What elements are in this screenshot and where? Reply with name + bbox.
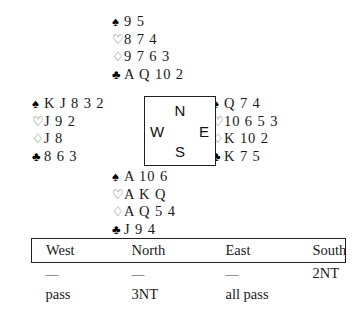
compass-east-label: E xyxy=(199,124,209,139)
auction-header-east: East xyxy=(212,239,299,263)
hand-north-hearts-cards: 8 7 4 xyxy=(124,31,158,49)
hand-east-spades: ♠ Q 7 4 xyxy=(212,95,278,113)
bridge-deal-diagram: ♠ 9 5 ♡ 8 7 4 ♢ 9 7 6 3 ♣ A Q 10 2 ♠ K J… xyxy=(0,0,359,232)
hand-east-spades-cards: Q 7 4 xyxy=(224,95,261,113)
hand-west-diamonds-cards: J 8 xyxy=(44,130,63,148)
hand-west-hearts: ♡ J 9 2 xyxy=(32,113,104,131)
hand-south-clubs: ♣ J 9 4 xyxy=(112,221,176,239)
auction-header-west: West xyxy=(32,239,118,263)
hand-east-diamonds: ♢ K 10 2 xyxy=(212,130,278,148)
auction-header-north: North xyxy=(118,239,212,263)
auction-bid-north-1: — xyxy=(118,263,212,285)
auction-bid-west-1: — xyxy=(32,263,118,285)
hand-west-clubs-cards: 8 6 3 xyxy=(44,148,78,166)
compass-west-label: W xyxy=(150,124,164,139)
auction-bid-west-2: pass xyxy=(32,284,118,305)
heart-icon: ♡ xyxy=(32,113,44,131)
hand-east-clubs: ♣ K 7 5 xyxy=(212,148,278,166)
hand-east-diamonds-cards: K 10 2 xyxy=(224,130,269,148)
hand-east-clubs-cards: K 7 5 xyxy=(224,148,261,166)
hand-north-spades: ♠ 9 5 xyxy=(112,13,184,31)
heart-icon: ♡ xyxy=(112,186,124,204)
hand-west-spades-cards: K J 8 3 2 xyxy=(44,95,104,113)
hand-north-clubs: ♣ A Q 10 2 xyxy=(112,66,184,84)
club-icon: ♣ xyxy=(112,221,124,239)
hand-north-spades-cards: 9 5 xyxy=(124,13,145,31)
hand-west-clubs: ♣ 8 6 3 xyxy=(32,148,104,166)
compass-north-label: N xyxy=(175,103,186,118)
compass-box: N W E S xyxy=(144,96,216,166)
auction-bid-south-1: 2NT xyxy=(299,263,346,285)
diamond-icon: ♢ xyxy=(32,130,44,148)
hand-north-hearts: ♡ 8 7 4 xyxy=(112,31,184,49)
hand-north-clubs-cards: A Q 10 2 xyxy=(124,66,184,84)
auction-table: West North East South — — — 2NT pass 3NT… xyxy=(31,238,345,305)
auction-header-row: West North East South xyxy=(32,239,346,263)
hand-west: ♠ K J 8 3 2 ♡ J 9 2 ♢ J 8 ♣ 8 6 3 xyxy=(32,95,104,165)
auction-bid-east-1: — xyxy=(212,263,299,285)
hand-east-hearts: ♡ 10 6 5 3 xyxy=(212,113,278,131)
hand-south: ♠ A 10 6 ♡ A K Q ♢ A Q 5 4 ♣ J 9 4 xyxy=(112,168,176,238)
diamond-icon: ♢ xyxy=(112,203,124,221)
hand-north: ♠ 9 5 ♡ 8 7 4 ♢ 9 7 6 3 ♣ A Q 10 2 xyxy=(112,13,184,83)
auction-header-south: South xyxy=(299,239,346,263)
hand-south-spades: ♠ A 10 6 xyxy=(112,168,176,186)
spade-icon: ♠ xyxy=(32,95,44,113)
hand-east: ♠ Q 7 4 ♡ 10 6 5 3 ♢ K 10 2 ♣ K 7 5 xyxy=(212,95,278,165)
compass-south-label: S xyxy=(175,144,185,159)
hand-south-diamonds: ♢ A Q 5 4 xyxy=(112,203,176,221)
hand-south-hearts: ♡ A K Q xyxy=(112,186,176,204)
hand-north-diamonds: ♢ 9 7 6 3 xyxy=(112,48,184,66)
hand-west-spades: ♠ K J 8 3 2 xyxy=(32,95,104,113)
hand-east-hearts-cards: 10 6 5 3 xyxy=(224,113,278,131)
heart-icon: ♡ xyxy=(112,31,124,49)
hand-west-hearts-cards: J 9 2 xyxy=(44,113,76,131)
auction-row: pass 3NT all pass xyxy=(32,284,346,305)
hand-south-spades-cards: A 10 6 xyxy=(124,168,168,186)
auction-row: — — — 2NT xyxy=(32,263,346,285)
spade-icon: ♠ xyxy=(112,13,124,31)
hand-north-diamonds-cards: 9 7 6 3 xyxy=(124,48,170,66)
diamond-icon: ♢ xyxy=(112,48,124,66)
hand-south-clubs-cards: J 9 4 xyxy=(124,221,156,239)
hand-west-diamonds: ♢ J 8 xyxy=(32,130,104,148)
auction-bid-east-2: all pass xyxy=(212,284,299,305)
hand-south-hearts-cards: A K Q xyxy=(124,186,166,204)
club-icon: ♣ xyxy=(32,148,44,166)
club-icon: ♣ xyxy=(112,66,124,84)
hand-south-diamonds-cards: A Q 5 4 xyxy=(124,203,176,221)
auction-bid-north-2: 3NT xyxy=(118,284,212,305)
auction-bid-south-2 xyxy=(299,284,346,305)
spade-icon: ♠ xyxy=(112,168,124,186)
